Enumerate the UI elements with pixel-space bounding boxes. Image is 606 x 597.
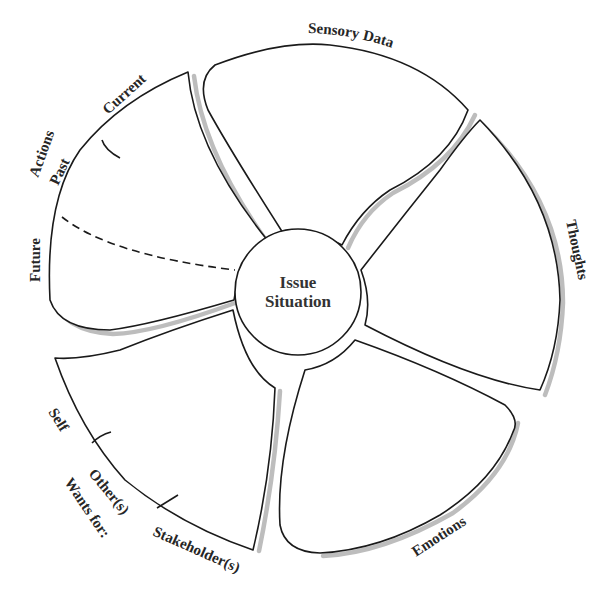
hub-label-line1: Issue: [280, 273, 317, 292]
hub-label-line2: Situation: [265, 292, 332, 311]
label-future: Future: [27, 238, 43, 282]
hub-issue-situation[interactable]: Issue Situation: [235, 229, 361, 355]
issue-situation-diagram: Issue Situation Sensory Data Thoughts Em…: [0, 0, 606, 597]
label-self: Self: [45, 405, 72, 435]
label-thoughts: Thoughts: [563, 218, 591, 281]
